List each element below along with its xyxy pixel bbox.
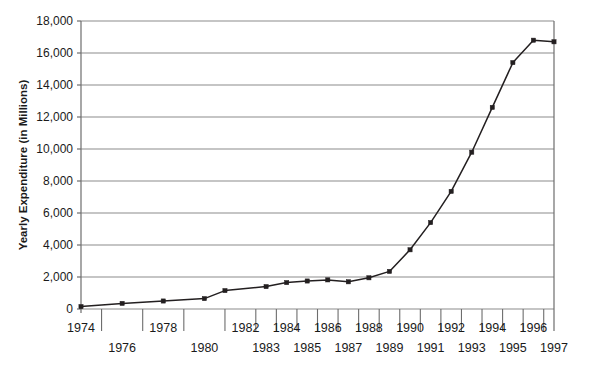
x-tick-label-top: 1988 <box>355 321 383 335</box>
x-tick-label-top: 1982 <box>232 321 260 335</box>
y-axis-title: Yearly Expenditure (in Millions) <box>17 80 29 251</box>
data-point-marker <box>223 289 227 293</box>
y-tick-label: 0 <box>66 302 73 316</box>
x-tick-label-bottom: 1993 <box>458 341 486 355</box>
x-tick-label-bottom: 1985 <box>293 341 321 355</box>
data-point-marker <box>449 189 453 193</box>
x-tick-label-bottom: 1991 <box>417 341 445 355</box>
x-tick-label-top: 1986 <box>314 321 342 335</box>
data-point-marker <box>202 297 206 301</box>
data-point-marker <box>511 61 515 65</box>
y-tick-label: 6,000 <box>43 206 73 220</box>
x-tick-label-top: 1974 <box>67 321 95 335</box>
x-tick-label-top: 1994 <box>478 321 506 335</box>
chart-background <box>0 0 590 366</box>
x-tick-label-bottom: 1995 <box>499 341 527 355</box>
data-point-marker <box>161 299 165 303</box>
y-tick-label: 12,000 <box>36 110 73 124</box>
x-tick-label-bottom: 1989 <box>376 341 404 355</box>
x-tick-label-top: 1992 <box>437 321 465 335</box>
x-tick-label-top: 1984 <box>273 321 301 335</box>
x-tick-label-bottom: 1997 <box>540 341 568 355</box>
data-point-marker <box>387 269 391 273</box>
y-tick-label: 16,000 <box>36 46 73 60</box>
data-point-marker <box>408 248 412 252</box>
y-tick-label: 14,000 <box>36 78 73 92</box>
data-point-marker <box>490 105 494 109</box>
data-point-marker <box>326 278 330 282</box>
chart-canvas: 02,0004,0006,0008,00010,00012,00014,0001… <box>0 0 590 366</box>
data-point-marker <box>346 280 350 284</box>
x-tick-label-bottom: 1983 <box>252 341 280 355</box>
y-tick-label: 2,000 <box>43 270 73 284</box>
x-tick-label-bottom: 1987 <box>334 341 362 355</box>
data-point-marker <box>552 40 556 44</box>
data-point-marker <box>531 38 535 42</box>
data-point-marker <box>120 301 124 305</box>
data-point-marker <box>285 281 289 285</box>
data-point-marker <box>264 285 268 289</box>
y-tick-label: 10,000 <box>36 142 73 156</box>
data-point-marker <box>367 276 371 280</box>
line-chart: 02,0004,0006,0008,00010,00012,00014,0001… <box>0 0 590 366</box>
x-tick-label-top: 1996 <box>520 321 548 335</box>
x-tick-label-top: 1990 <box>396 321 424 335</box>
data-point-marker <box>79 305 83 309</box>
y-tick-label: 18,000 <box>36 14 73 28</box>
data-point-marker <box>470 150 474 154</box>
data-point-marker <box>305 279 309 283</box>
y-tick-label: 8,000 <box>43 174 73 188</box>
x-tick-label-top: 1978 <box>149 321 177 335</box>
data-point-marker <box>429 221 433 225</box>
x-tick-label-bottom: 1976 <box>108 341 136 355</box>
x-tick-label-bottom: 1980 <box>190 341 218 355</box>
y-tick-label: 4,000 <box>43 238 73 252</box>
